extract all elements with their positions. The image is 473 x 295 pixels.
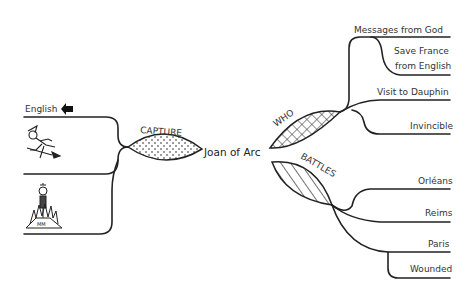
center-topic: Joan of Arc — [203, 146, 261, 158]
burning-at-stake-icon: MM — [26, 183, 62, 228]
branch-label-capture: CAPTURE — [140, 125, 183, 138]
child-save-france-1: Save France — [394, 46, 449, 56]
child-messages-from-god: Messages from God — [354, 25, 443, 35]
branch-who: WHO Messages from God Save France from E… — [270, 25, 454, 148]
child-orleans: Orléans — [418, 176, 453, 186]
witch-on-broom-icon — [27, 126, 60, 158]
arrow-left-icon — [61, 103, 73, 115]
child-reims: Reims — [425, 208, 453, 218]
capture-leaf — [128, 134, 202, 160]
mind-map: Joan of Arc CAPTURE English — [0, 0, 473, 295]
child-visit-dauphin: Visit to Dauphin — [377, 87, 449, 97]
branch-battles: BATTLES Orléans Reims Paris Wounded — [272, 151, 453, 278]
branch-capture: CAPTURE English MM — [24, 103, 202, 234]
child-save-france-2: from English — [395, 61, 451, 71]
svg-text:MM: MM — [37, 221, 46, 227]
child-invincible: Invincible — [410, 121, 454, 131]
capture-line-english — [24, 117, 128, 147]
who-line-visit — [340, 100, 450, 112]
child-english: English — [25, 104, 58, 114]
child-paris: Paris — [428, 239, 450, 249]
child-wounded: Wounded — [410, 264, 452, 274]
